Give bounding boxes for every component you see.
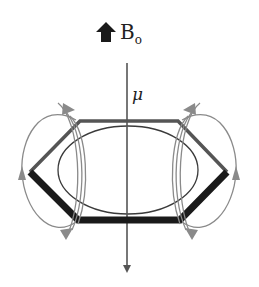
magnetic-moment-axis xyxy=(123,63,131,273)
ring-current-ellipse xyxy=(58,126,198,214)
field-label: Bo xyxy=(120,20,142,47)
left-field-lines xyxy=(18,103,86,240)
field-label-main: B xyxy=(120,20,135,44)
right-field-lines xyxy=(172,103,240,240)
field-label-subscript: o xyxy=(135,33,142,47)
moment-label: μ xyxy=(132,84,143,104)
field-arrow-icon xyxy=(96,22,116,42)
